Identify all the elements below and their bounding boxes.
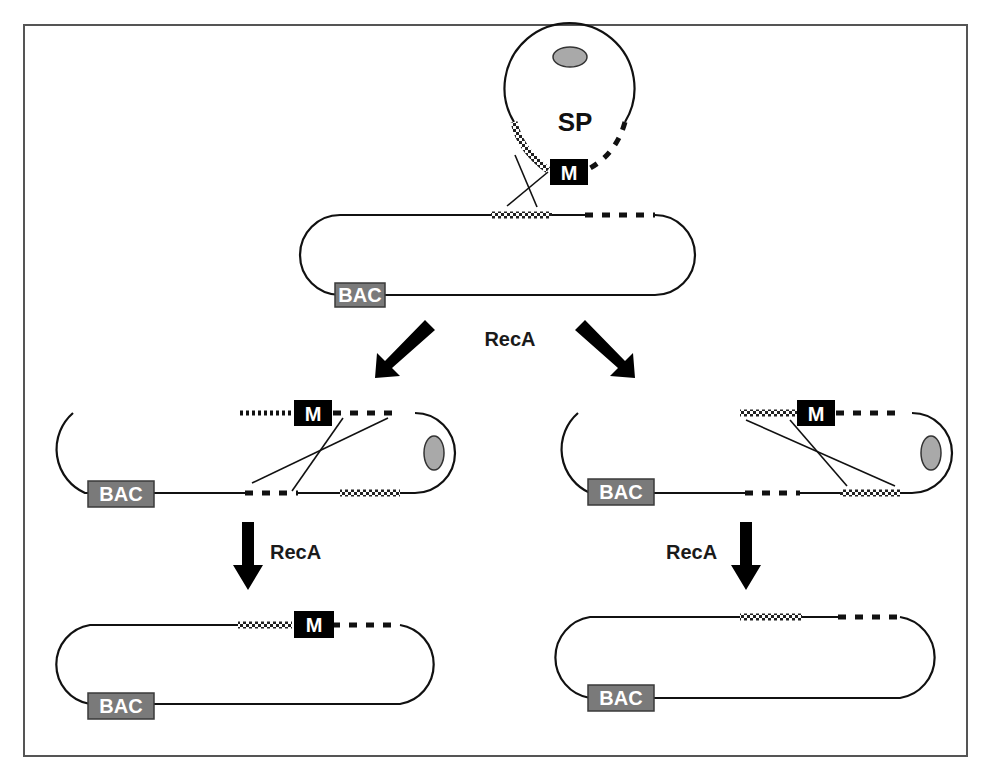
diagram-canvas: SP M BAC RecA M BAC (0, 0, 989, 778)
crossover-line (507, 172, 548, 206)
marker-label: M (561, 162, 578, 184)
cointegrate-right: M BAC (562, 400, 952, 505)
cointegrate-left: M BAC (57, 400, 455, 507)
arrow-down-right (575, 320, 635, 378)
bac-label: BAC (599, 687, 642, 709)
bac-label: BAC (99, 483, 142, 505)
crossover-line (515, 155, 537, 207)
marker-label: M (808, 403, 825, 425)
bac-top: BAC (300, 215, 695, 307)
crossover-line (790, 420, 847, 486)
figure-frame (24, 25, 967, 756)
crossover-line (292, 418, 343, 491)
marker-label: M (305, 403, 322, 425)
origin-ellipse (553, 47, 587, 67)
reca-label-top: RecA (484, 328, 535, 350)
arrow-down-right-bottom (731, 522, 761, 590)
resolved-bac-original: BAC (555, 617, 934, 711)
origin-ellipse (424, 436, 444, 470)
reca-label-right: RecA (666, 541, 717, 563)
bac-label: BAC (338, 284, 381, 306)
bac-label: BAC (599, 481, 642, 503)
shuttle-plasmid: SP M (504, 23, 634, 207)
marker-label: M (306, 614, 323, 636)
faded-caption (24, 762, 969, 776)
crossover-line (252, 418, 388, 483)
crossover-line (746, 420, 895, 486)
resolved-bac-with-marker: M BAC (56, 611, 433, 719)
origin-ellipse (921, 436, 941, 470)
arrow-down-left-bottom (233, 522, 263, 590)
bac-label: BAC (99, 695, 142, 717)
reca-label-left: RecA (270, 541, 321, 563)
sp-label: SP (558, 107, 593, 137)
arrow-down-left (375, 320, 435, 378)
